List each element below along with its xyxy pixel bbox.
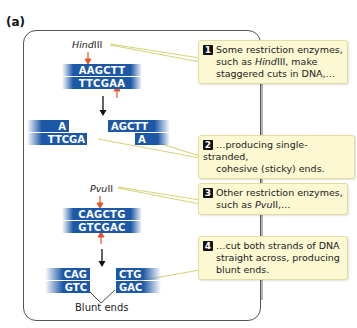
- blunt-ends-label: Blunt ends: [75, 302, 128, 313]
- left-fragment-top: A: [27, 120, 69, 132]
- pvuii-right-fragment: CTG GAC: [116, 268, 161, 293]
- hindiii-label-italic: Hind: [72, 39, 94, 50]
- callout-4-line1: …cut both strands of DNA: [216, 240, 340, 251]
- right-fragment-top: AGCTT: [108, 120, 170, 132]
- callout-1-line2-post: III, make: [277, 56, 318, 67]
- callout-3: 3Other restriction enzymes, such as PvuI…: [198, 183, 348, 215]
- hindiii-label-roman: III: [94, 39, 102, 50]
- callout-1: 1Some restriction enzymes, such as HindI…: [198, 40, 348, 84]
- hindiii-right-fragment: AGCTT A: [108, 120, 170, 145]
- callout-3-line2-pre: such as: [216, 199, 255, 210]
- pvuii-right-bottom: GAC: [116, 281, 161, 293]
- callout-1-line3: staggered cuts in DNA,…: [203, 68, 343, 80]
- callout-2-line1: …producing single-stranded,: [203, 139, 308, 162]
- process-arrow-2: [99, 249, 106, 267]
- callout-4: 4…cut both strands of DNA straight acros…: [198, 236, 348, 280]
- pvuii-top-strand: CAGCTG: [62, 208, 142, 220]
- callout-4-line3: blunt ends.: [203, 264, 343, 276]
- callout-2-number: 2: [203, 140, 213, 150]
- callout-2: 2…producing single-stranded, cohesive (s…: [198, 135, 355, 179]
- pvuii-label-italic: Pvu: [90, 183, 107, 194]
- hindiii-bottom-strand: TTCGAA: [62, 77, 142, 89]
- callout-3-line2-italic: Pvu: [255, 199, 272, 210]
- callout-3-number: 3: [203, 188, 213, 198]
- callout-4-line2: straight across, producing: [203, 252, 343, 264]
- callout-1-line2-pre: such as: [216, 56, 255, 67]
- pvuii-bottom-strand: GTCGAC: [62, 221, 142, 233]
- pvuii-right-top: CTG: [116, 268, 161, 280]
- hindiii-dna-duplex: AAGCTT TTCGAA: [62, 64, 142, 90]
- left-fragment-bottom: TTCGA: [27, 133, 87, 145]
- hindiii-top-strand: AAGCTT: [62, 64, 142, 76]
- process-arrow-1: [100, 96, 107, 116]
- pvuii-label-roman: II: [107, 183, 113, 194]
- callout-3-line2-post: II,…: [272, 199, 290, 210]
- pvuii-label: PvuII: [90, 183, 113, 194]
- callout-3-line1: Other restriction enzymes,: [216, 187, 343, 198]
- hindiii-left-fragment: A TTCGA: [27, 120, 87, 145]
- hindiii-label: HindIII: [72, 39, 102, 50]
- pvuii-left-top: CAG: [45, 268, 90, 280]
- callout-1-line2-italic: Hind: [255, 56, 277, 67]
- callout-4-number: 4: [203, 241, 213, 251]
- pvuii-dna-duplex: CAGCTG GTCGAC: [62, 208, 142, 234]
- pvuii-left-fragment: CAG GTC: [45, 268, 90, 293]
- callout-2-line2: cohesive (sticky) ends.: [203, 163, 350, 175]
- callout-1-line1: Some restriction enzymes,: [216, 44, 343, 55]
- callout-1-number: 1: [203, 45, 213, 55]
- pvuii-left-bottom: GTC: [45, 281, 90, 293]
- right-fragment-bottom: A: [135, 133, 170, 145]
